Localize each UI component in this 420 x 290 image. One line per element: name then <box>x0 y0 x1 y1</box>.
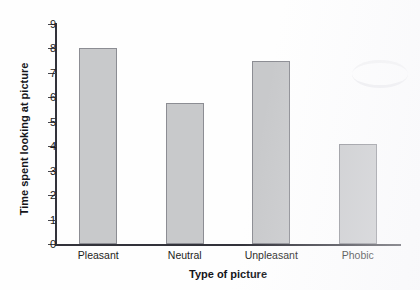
y-tick-label: 0 <box>38 238 56 250</box>
y-tick-label: 4 <box>38 140 56 152</box>
y-axis-title: Time spent looking at picture <box>18 39 30 239</box>
x-axis-title: Type of picture <box>55 268 401 280</box>
bar-neutral <box>166 103 204 244</box>
y-tick-label: 6 <box>38 91 56 103</box>
x-axis-line <box>55 244 401 246</box>
y-tick-label: 2 <box>38 189 56 201</box>
category-label-neutral: Neutral <box>168 249 202 261</box>
y-tick-label: 7 <box>38 67 56 79</box>
category-label-phobic: Phobic <box>342 249 374 261</box>
bar-pleasant <box>79 48 117 244</box>
bar-chart: 0123456789 Time spent looking at picture… <box>0 0 420 290</box>
bar-phobic <box>339 144 377 244</box>
y-tick-label: 1 <box>38 214 56 226</box>
y-tick-label: 8 <box>38 42 56 54</box>
y-axis-line <box>55 23 57 245</box>
y-tick-label: 3 <box>38 165 56 177</box>
chart-screenshot: 0123456789 Time spent looking at picture… <box>0 0 420 290</box>
y-tick-label: 9 <box>38 18 56 30</box>
y-tick-label: 5 <box>38 116 56 128</box>
bar-unpleasant <box>252 61 290 244</box>
category-label-pleasant: Pleasant <box>78 249 119 261</box>
category-label-unpleasant: Unpleasant <box>245 249 298 261</box>
